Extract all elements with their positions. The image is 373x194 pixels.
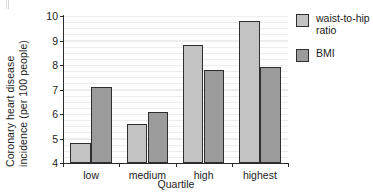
y-tick-mark — [60, 41, 64, 42]
y-axis-title-line-2: incidence (per 100 people) — [17, 40, 29, 167]
y-tick-mark — [60, 16, 64, 17]
legend-swatch-icon — [296, 14, 309, 27]
y-axis-title-line-1: Coronary heart disease — [4, 56, 16, 167]
bar-high-waist-to-hip-ratio — [183, 45, 204, 163]
y-tick-mark — [60, 114, 64, 115]
chart-legend: waist-to-hipratioBMI — [296, 13, 373, 74]
legend-item-bmi[interactable]: BMI — [296, 48, 373, 62]
x-tick-mark — [232, 163, 233, 167]
bar-high-bmi — [204, 70, 225, 163]
y-tick-mark — [60, 65, 64, 66]
bar-highest-bmi — [260, 67, 281, 163]
y-tick-label: 8 — [52, 60, 58, 71]
y-axis-title: Coronary heart disease incidence (per 10… — [0, 12, 46, 167]
x-tick-mark — [288, 163, 289, 167]
bar-low-waist-to-hip-ratio — [70, 143, 91, 163]
y-tick-label: 6 — [52, 109, 58, 120]
y-tick-label: 4 — [52, 158, 58, 169]
legend-label: waist-to-hipratio — [316, 13, 370, 36]
chart-figure: Coronary heart disease incidence (per 10… — [0, 0, 373, 194]
legend-label-line-2: ratio — [316, 25, 370, 37]
x-tick-mark — [119, 163, 120, 167]
y-tick-label: 5 — [52, 133, 58, 144]
y-tick-label: 9 — [52, 35, 58, 46]
legend-item-waist-to-hip-ratio[interactable]: waist-to-hipratio — [296, 13, 373, 36]
corner-artifact — [6, 0, 11, 9]
y-tick-label: 10 — [46, 11, 58, 22]
bar-low-bmi — [91, 87, 112, 163]
x-tick-mark — [176, 163, 177, 167]
x-tick-mark — [63, 163, 64, 167]
bar-medium-waist-to-hip-ratio — [127, 124, 148, 163]
y-tick-label: 7 — [52, 84, 58, 95]
legend-label: BMI — [316, 48, 335, 60]
plot-area: 45678910 lowmediumhighhighest — [63, 16, 288, 163]
bar-medium-bmi — [148, 112, 169, 163]
x-axis-title: Quartile — [63, 178, 289, 190]
legend-label-line-1: waist-to-hip — [316, 13, 370, 25]
y-tick-mark — [60, 139, 64, 140]
y-tick-mark — [60, 90, 64, 91]
legend-swatch-icon — [296, 49, 309, 62]
bar-highest-waist-to-hip-ratio — [239, 21, 260, 163]
